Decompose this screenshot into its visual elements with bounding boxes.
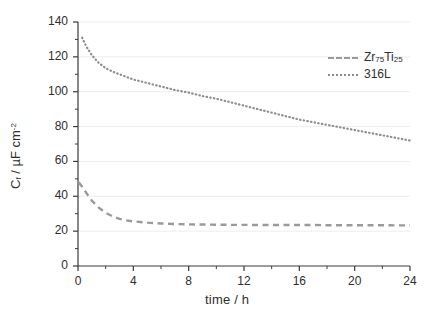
legend-label-zr75ti25: Zr75Ti25: [364, 50, 403, 64]
x-tick-label: 20: [340, 274, 370, 288]
legend-swatch-dotted: [328, 74, 358, 76]
legend-label-316l: 316L: [364, 67, 391, 81]
y-tick-label: 120: [38, 49, 68, 63]
y-tick-label: 0: [38, 258, 68, 272]
x-tick-label: 0: [63, 274, 93, 288]
series-line-zr75ti25: [79, 182, 410, 225]
x-tick-label: 16: [284, 274, 314, 288]
legend-item-316l: 316L: [300, 67, 420, 83]
legend-item-zr75ti25: Zr75Ti25: [300, 50, 420, 66]
y-tick-label: 80: [38, 119, 68, 133]
y-axis-ticks: [73, 22, 78, 266]
x-axis-ticks: [78, 266, 410, 271]
y-tick-label: 60: [38, 153, 68, 167]
legend-label-ti-sub: 25: [394, 55, 403, 64]
chart-figure: Cf / µF cm-2 time / h 020406080100120140…: [0, 0, 426, 321]
y-tick-label: 20: [38, 223, 68, 237]
y-tick-label: 140: [38, 14, 68, 28]
x-tick-label: 4: [118, 274, 148, 288]
legend-label-zr-sub: 75: [375, 55, 384, 64]
x-tick-label: 12: [229, 274, 259, 288]
x-tick-label: 8: [174, 274, 204, 288]
legend-label-zr: Zr: [364, 50, 375, 64]
x-tick-label: 24: [395, 274, 425, 288]
chart-legend: Zr75Ti25 316L: [300, 50, 420, 86]
legend-label-ti: Ti: [384, 50, 394, 64]
y-tick-label: 100: [38, 84, 68, 98]
y-tick-label: 40: [38, 188, 68, 202]
legend-swatch-dashed: [328, 57, 358, 59]
